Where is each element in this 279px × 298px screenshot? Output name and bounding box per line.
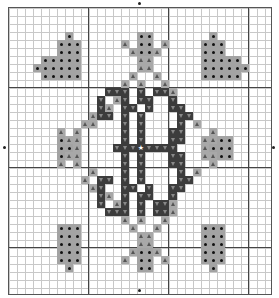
dark-stitch-icon [129,104,137,112]
tri-stitch-icon [73,152,81,160]
dot-stitch-icon [137,48,145,56]
dot-stitch-icon [145,264,153,272]
tri-stitch-icon [193,168,201,176]
tri-stitch-icon [73,128,81,136]
dot-stitch-icon [233,56,241,64]
tri-stitch-icon [89,184,97,192]
dark-stitch-icon [177,120,185,128]
tri-stitch-icon [153,224,161,232]
tri-stitch-icon [161,216,169,224]
tri-stitch-icon [137,216,145,224]
dot-stitch-icon [65,72,73,80]
dark-stitch-icon [121,168,129,176]
dark-stitch-icon [121,96,129,104]
dot-stitch-icon [201,240,209,248]
dot-stitch-icon [57,144,65,152]
tri-stitch-icon [105,192,113,200]
dark-stitch-icon [161,200,169,208]
dot-stitch-icon [209,48,217,56]
dot-stitch-icon [209,64,217,72]
dot-stitch-icon [73,72,81,80]
dark-stitch-icon [185,176,193,184]
tri-stitch-icon [73,160,81,168]
tri-stitch-icon [89,120,97,128]
dark-stitch-icon [137,176,145,184]
tri-stitch-icon [193,120,201,128]
dot-stitch-icon [217,248,225,256]
dot-stitch-icon [57,152,65,160]
dot-stitch-icon [233,72,241,80]
dot-stitch-icon [65,224,73,232]
tri-stitch-icon [201,152,209,160]
pattern-grid [8,7,272,295]
dark-stitch-icon [137,192,145,200]
dark-stitch-icon [169,192,177,200]
tri-stitch-icon [113,200,121,208]
dot-stitch-icon [201,224,209,232]
dot-stitch-icon [57,72,65,80]
dark-stitch-icon [145,184,153,192]
dot-stitch-icon [217,136,225,144]
dot-stitch-icon [137,264,145,272]
dot-stitch-icon [73,232,81,240]
dark-stitch-icon [105,208,113,216]
tri-stitch-icon [57,128,65,136]
tri-stitch-icon [201,144,209,152]
dark-stitch-icon [121,176,129,184]
dark-stitch-icon [177,168,185,176]
dot-stitch-icon [73,224,81,232]
dark-stitch-icon [169,160,177,168]
tri-stitch-icon [145,64,153,72]
dot-stitch-icon [225,152,233,160]
dark-stitch-icon [137,200,145,208]
dark-stitch-icon [97,184,105,192]
dot-stitch-icon [57,232,65,240]
dot-stitch-icon [209,256,217,264]
dot-stitch-icon [73,64,81,72]
tri-stitch-icon [137,80,145,88]
dark-stitch-icon [137,112,145,120]
dot-stitch-icon [57,56,65,64]
dot-stitch-icon [225,136,233,144]
dot-stitch-icon [137,256,145,264]
dark-stitch-icon [137,152,145,160]
tri-stitch-icon [65,136,73,144]
dot-stitch-icon [201,248,209,256]
tri-stitch-icon [169,208,177,216]
dot-stitch-icon [225,72,233,80]
dot-stitch-icon [217,56,225,64]
dark-stitch-icon [121,160,129,168]
dark-stitch-icon [121,120,129,128]
tri-stitch-icon [81,120,89,128]
dot-stitch-icon [73,40,81,48]
dark-stitch-icon [113,144,121,152]
dark-stitch-icon [169,136,177,144]
dot-stitch-icon [209,32,217,40]
tri-stitch-icon [209,152,217,160]
tri-stitch-icon [145,240,153,248]
tri-stitch-icon [57,160,65,168]
dot-stitch-icon [57,248,65,256]
dot-stitch-icon [241,64,249,72]
dot-stitch-icon [33,64,41,72]
dark-stitch-icon [169,152,177,160]
dark-stitch-icon [121,128,129,136]
tri-stitch-icon [73,144,81,152]
dark-stitch-icon [161,208,169,216]
star-stitch-icon [137,144,145,152]
dark-stitch-icon [137,168,145,176]
dark-stitch-icon [121,144,129,152]
dark-stitch-icon [97,112,105,120]
center-marker-right [272,146,275,149]
dot-stitch-icon [57,136,65,144]
dark-stitch-icon [121,152,129,160]
dot-stitch-icon [145,40,153,48]
center-marker-top [138,2,141,5]
tri-stitch-icon [129,72,137,80]
dot-stitch-icon [73,256,81,264]
dot-stitch-icon [201,72,209,80]
dark-stitch-icon [161,88,169,96]
dot-stitch-icon [73,56,81,64]
dot-stitch-icon [65,32,73,40]
dot-stitch-icon [49,56,57,64]
